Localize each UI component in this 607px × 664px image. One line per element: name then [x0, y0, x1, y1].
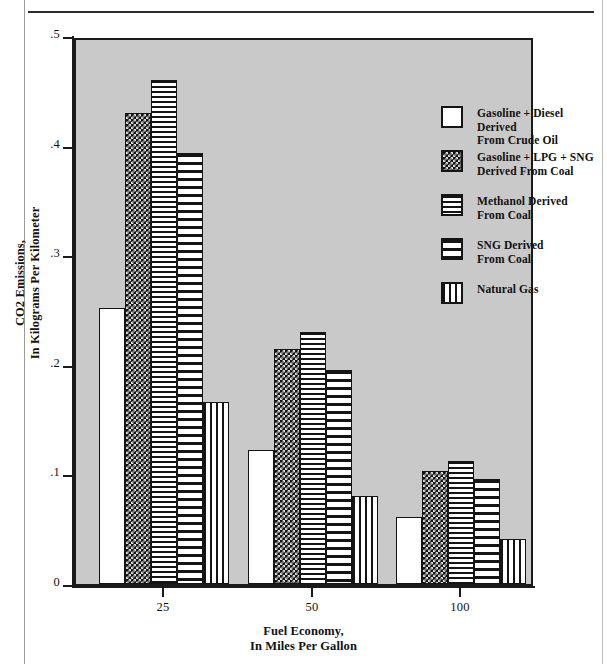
bar-50mpg-checker [274, 349, 300, 584]
y-axis-tick: .1 [40, 475, 72, 477]
bar-100mpg-solid-white [396, 517, 422, 584]
x-axis-tick-mark [162, 588, 164, 597]
y-axis-tick-mark [63, 256, 72, 258]
legend-label: Methanol Derived From Coal [477, 195, 568, 222]
x-axis-title-line: Fuel Economy, [0, 624, 607, 639]
y-axis-tick-mark [63, 147, 72, 149]
bar-100mpg-vline [500, 539, 526, 584]
x-axis-tick-label: 50 [282, 600, 342, 615]
legend-swatch-hline-coarse [441, 238, 463, 260]
bar-100mpg-hline-fine [448, 461, 474, 584]
bar-25mpg-checker [125, 113, 151, 584]
y-axis-spine [72, 36, 74, 588]
x-axis-tick-mark [311, 588, 313, 597]
bar-25mpg-hline-fine [151, 80, 177, 584]
bar-25mpg-hline-coarse [177, 153, 203, 584]
legend-item: Gasoline + Diesel Derived From Crude Oil [441, 106, 601, 150]
legend-label: Gasoline + LPG + SNG Derived From Coal [477, 151, 594, 178]
x-axis-title-line: In Miles Per Gallon [0, 639, 607, 654]
x-axis-tick-label: 100 [430, 600, 490, 615]
y-axis-tick-mark [63, 37, 72, 39]
y-axis-tick-label: .3 [50, 247, 60, 259]
bar-100mpg-hline-coarse [474, 479, 500, 584]
legend-item: Gasoline + LPG + SNG Derived From Coal [441, 150, 601, 194]
legend-label: Natural Gas [477, 283, 538, 297]
bar-50mpg-solid-white [248, 450, 274, 584]
legend-swatch-solid-white [441, 106, 463, 128]
x-axis-tick-label: 25 [133, 600, 193, 615]
legend-swatch-checker [441, 150, 463, 172]
y-axis-tick: .2 [40, 366, 72, 368]
y-axis-tick: .4 [40, 147, 72, 149]
legend-swatch-vline [441, 282, 463, 304]
bar-25mpg-vline [203, 402, 229, 584]
legend-item: SNG Derived From Coal [441, 238, 601, 282]
plot-area: Gasoline + Diesel Derived From Crude Oil… [74, 38, 533, 586]
y-axis-tick-label: .1 [50, 466, 60, 478]
bar-chart-figure: Gasoline + Diesel Derived From Crude Oil… [0, 0, 607, 664]
bar-50mpg-vline [352, 496, 378, 584]
bar-100mpg-checker [422, 471, 448, 584]
legend-label: Gasoline + Diesel Derived From Crude Oil [477, 107, 601, 148]
bar-50mpg-hline-coarse [326, 370, 352, 584]
y-axis-tick-label: 0 [54, 576, 60, 588]
y-axis-tick-label: .4 [50, 138, 60, 150]
legend-item: Methanol Derived From Coal [441, 194, 601, 238]
legend-swatch-hline-fine [441, 194, 463, 216]
x-axis-title: Fuel Economy,In Miles Per Gallon [0, 624, 607, 654]
y-axis-tick: 0 [40, 585, 72, 587]
legend-label: SNG Derived From Coal [477, 239, 544, 266]
bar-25mpg-solid-white [99, 308, 125, 584]
chart-legend: Gasoline + Diesel Derived From Crude Oil… [441, 106, 601, 326]
x-axis-tick-mark [459, 588, 461, 597]
y-axis-tick: .5 [40, 37, 72, 39]
y-axis-title-line: CO2 Emissions, [13, 163, 28, 403]
y-axis-tick-label: .2 [50, 357, 60, 369]
x-axis-spine [72, 586, 535, 588]
y-axis-tick-mark [63, 475, 72, 477]
bar-50mpg-hline-fine [300, 332, 326, 584]
y-axis-tick-label: .5 [50, 28, 60, 40]
legend-item: Natural Gas [441, 282, 601, 326]
y-axis-tick-mark [63, 585, 72, 587]
y-axis-tick-mark [63, 366, 72, 368]
y-axis-title-line: In Kilograms Per Kilometer [28, 163, 43, 403]
y-axis-tick: .3 [40, 256, 72, 258]
y-axis-title: CO2 Emissions,In Kilograms Per Kilometer [13, 163, 43, 403]
